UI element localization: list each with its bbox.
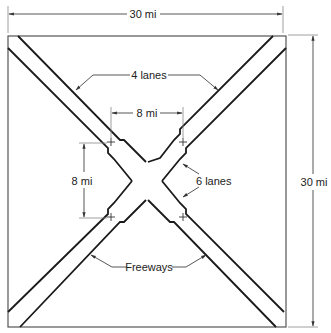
- freeways-callout: Freeways: [91, 255, 206, 273]
- height-dimension: 30 mi: [288, 35, 327, 327]
- inner-width-dimension: 8 mi: [111, 107, 183, 138]
- interchange-ne-marker: [179, 138, 187, 146]
- height-dimension-label: 30 mi: [301, 176, 328, 188]
- six-lanes-label: 6 lanes: [196, 175, 232, 187]
- inner-height-dimension-label: 8 mi: [72, 175, 93, 187]
- inner-height-dimension: 8 mi: [72, 143, 107, 218]
- inner-width-dimension-label: 8 mi: [137, 107, 158, 119]
- freeway-diagram: 30 mi 30 mi: [0, 0, 331, 333]
- four-lanes-callout: 4 lanes: [76, 69, 218, 90]
- freeways-label: Freeways: [125, 261, 173, 273]
- interchange-markers: [107, 138, 187, 221]
- width-dimension-label: 30 mi: [130, 8, 157, 20]
- six-lanes-callout: 6 lanes: [183, 164, 232, 197]
- width-dimension: 30 mi: [8, 6, 283, 33]
- four-lanes-label: 4 lanes: [131, 69, 167, 81]
- interchange-nw-marker: [107, 138, 115, 146]
